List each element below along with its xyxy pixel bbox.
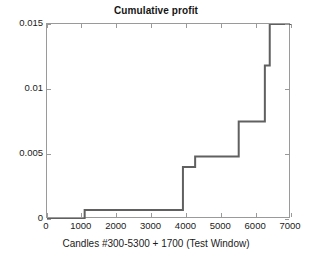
x-tick-mark xyxy=(151,24,152,28)
x-tick-mark xyxy=(81,24,82,28)
cumulative-profit-line xyxy=(47,24,291,219)
y-tick-mark xyxy=(47,24,51,25)
y-tick-mark xyxy=(47,89,51,90)
x-tick-mark xyxy=(116,213,117,217)
y-tick-label: 0.005 xyxy=(19,148,43,158)
plot-area xyxy=(46,23,290,218)
x-tick-label: 4000 xyxy=(175,221,196,231)
y-tick-mark xyxy=(47,154,51,155)
chart-figure: Cumulative profit 00.0050.010.015 010002… xyxy=(0,0,312,264)
x-tick-mark xyxy=(221,24,222,28)
x-tick-mark xyxy=(186,213,187,217)
x-tick-mark xyxy=(256,24,257,28)
x-tick-label: 2000 xyxy=(105,221,126,231)
x-tick-mark xyxy=(221,213,222,217)
step-line-series xyxy=(47,24,291,219)
x-tick-mark xyxy=(256,213,257,217)
y-tick-label: 0.01 xyxy=(25,83,44,93)
x-tick-mark xyxy=(291,24,292,28)
y-tick-mark xyxy=(285,154,289,155)
x-tick-mark xyxy=(291,213,292,217)
y-tick-label: 0.015 xyxy=(19,18,43,28)
x-tick-mark xyxy=(47,213,48,217)
x-tick-mark xyxy=(116,24,117,28)
x-tick-label: 5000 xyxy=(210,221,231,231)
x-tick-label: 1000 xyxy=(70,221,91,231)
x-tick-label: 7000 xyxy=(279,221,300,231)
y-tick-mark xyxy=(285,24,289,25)
x-tick-label: 3000 xyxy=(140,221,161,231)
x-tick-mark xyxy=(151,213,152,217)
x-axis-label: Candles #300-5300 + 1700 (Test Window) xyxy=(0,238,312,249)
x-axis-tick-labels: 01000200030004000500060007000 xyxy=(0,221,312,235)
chart-title: Cumulative profit xyxy=(0,5,312,16)
x-tick-mark xyxy=(47,24,48,28)
x-tick-mark xyxy=(81,213,82,217)
x-tick-label: 6000 xyxy=(245,221,266,231)
y-tick-mark xyxy=(285,89,289,90)
x-tick-label: 0 xyxy=(43,221,48,231)
x-tick-mark xyxy=(186,24,187,28)
